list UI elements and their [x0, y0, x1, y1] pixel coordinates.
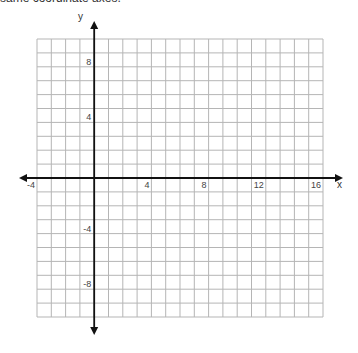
arrow-up-icon: [90, 21, 98, 29]
x-tick-label: -4: [27, 180, 35, 190]
x-tick-label: 16: [311, 180, 321, 190]
arrow-down-icon: [90, 327, 98, 335]
x-tick-label: 12: [254, 180, 264, 190]
y-tick-label: 8: [86, 57, 91, 67]
x-axis-label: x: [337, 179, 342, 190]
x-tick-label: 4: [144, 180, 149, 190]
arrow-left-icon: [19, 174, 27, 182]
y-tick-label: -4: [83, 224, 91, 234]
y-axis-label: y: [78, 11, 83, 22]
y-tick-label: 4: [86, 112, 91, 122]
y-tick-label: -8: [83, 279, 91, 289]
x-tick-label: 8: [202, 180, 207, 190]
coordinate-plane: -448121684-4-8 y x: [0, 0, 358, 353]
tick-labels: -448121684-4-8: [27, 57, 321, 289]
